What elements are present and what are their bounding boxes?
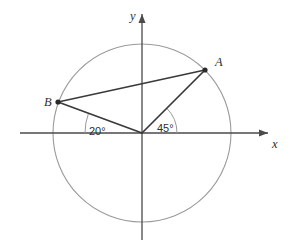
angle-label-45: 45° (157, 122, 174, 134)
x-axis-label: x (271, 137, 278, 151)
y-axis-label: y (128, 9, 136, 23)
point-label-B: B (44, 95, 52, 109)
x-axis-arrowhead (259, 130, 268, 137)
segment-A-to-B (58, 70, 205, 102)
angle-arc-20 (85, 114, 88, 134)
point-label-A: A (214, 55, 223, 69)
angle-diagram-svg: A B y x 45° 20° (0, 0, 290, 252)
y-axis-arrowhead (139, 14, 146, 23)
figure-container: A B y x 45° 20° (0, 0, 290, 252)
angle-label-20: 20° (89, 125, 106, 137)
point-dot-B (55, 99, 60, 104)
point-dot-A (202, 67, 207, 72)
